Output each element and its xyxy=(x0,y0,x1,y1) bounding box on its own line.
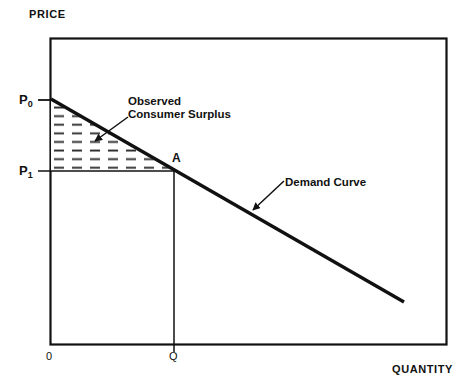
origin-label: 0 xyxy=(46,350,52,362)
x-tick-label-q: Q xyxy=(169,350,178,362)
y-axis-title: PRICE xyxy=(29,8,66,20)
y-tick-label-p0: P0 xyxy=(19,92,33,109)
surplus-annotation-line-2: Consumer Surplus xyxy=(128,108,231,121)
surplus-annotation-line-1: Observed xyxy=(128,95,231,108)
p0-base: P xyxy=(19,92,28,107)
observed-consumer-surplus-annotation: Observed Consumer Surplus xyxy=(128,95,231,121)
demand-curve-annotation: Demand Curve xyxy=(285,176,366,189)
consumer-surplus-diagram xyxy=(0,0,469,390)
p1-base: P xyxy=(19,163,28,178)
y-tick-label-p1: P1 xyxy=(19,163,33,180)
x-axis-title: QUANTITY xyxy=(392,363,453,375)
p0-subscript: 0 xyxy=(28,99,33,109)
figure-background xyxy=(0,0,469,390)
p1-subscript: 1 xyxy=(28,170,33,180)
point-a-label: A xyxy=(172,151,181,165)
